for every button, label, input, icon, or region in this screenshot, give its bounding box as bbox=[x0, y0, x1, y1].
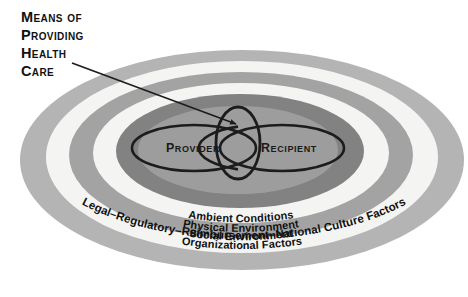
title-line-2: Providing bbox=[21, 27, 84, 43]
title-line-3: Health bbox=[21, 45, 66, 61]
health-care-model-diagram: Provider Recipient Ambient Conditions Ph… bbox=[0, 0, 468, 297]
title-block: Means of Providing Health Care bbox=[21, 9, 84, 79]
concentric-ring-diagram-canvas: Provider Recipient Ambient Conditions Ph… bbox=[0, 0, 468, 297]
title-line-1: Means of bbox=[21, 9, 82, 25]
node-recipient-label: Recipient bbox=[261, 141, 317, 155]
node-provider-label: Provider bbox=[166, 141, 220, 155]
title-line-4: Care bbox=[21, 63, 54, 79]
